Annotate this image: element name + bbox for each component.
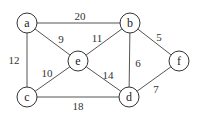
edge-weight-e-c: 10 (42, 67, 54, 79)
edge-weight-a-b: 20 (75, 10, 87, 22)
node-label: b (127, 16, 133, 30)
node-layer: abefcd (17, 13, 189, 107)
weighted-graph-diagram: 2091211651014187 abefcd (0, 0, 200, 120)
edge-weight-b-e: 11 (92, 32, 103, 44)
edge-weight-a-e: 9 (58, 33, 64, 45)
node-label: e (75, 54, 80, 68)
node-b: b (120, 13, 140, 33)
node-c: c (17, 87, 37, 107)
edge-weight-b-f: 5 (156, 31, 162, 43)
node-label: f (177, 54, 181, 68)
edge-b-d (129, 23, 130, 97)
node-f: f (169, 51, 189, 71)
edge-weight-a-c: 12 (9, 54, 20, 66)
edge-weight-b-d: 6 (135, 57, 141, 69)
node-label: a (24, 16, 30, 30)
edge-weight-e-d: 14 (103, 69, 115, 81)
node-label: c (24, 90, 29, 104)
edge-weight-d-f: 7 (153, 83, 159, 95)
node-label: d (126, 90, 132, 104)
node-e: e (68, 51, 88, 71)
node-d: d (119, 87, 139, 107)
edge-weight-c-d: 18 (73, 100, 85, 112)
node-a: a (17, 13, 37, 33)
